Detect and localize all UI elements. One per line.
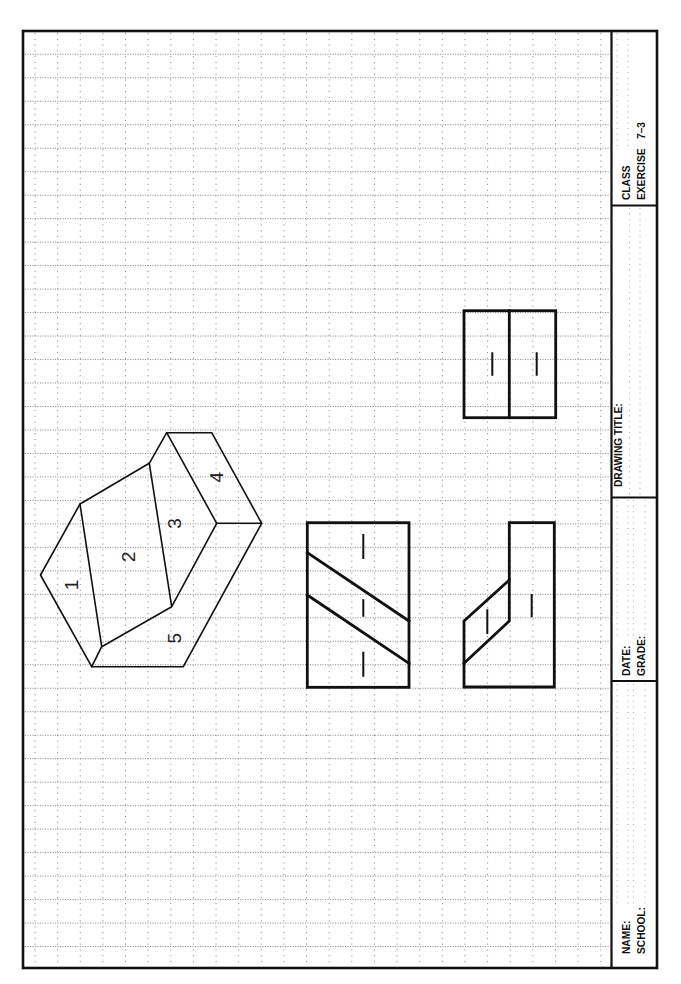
- drawing-sheet: CLASS EXERCISE 7–3 DRAWING TITLE: DATE: …: [0, 0, 681, 984]
- face-label-5: 5: [164, 633, 185, 644]
- exercise-label: EXERCISE: [636, 148, 647, 200]
- exercise-number: 7–3: [636, 122, 647, 139]
- date-label: DATE:: [621, 646, 632, 676]
- drawing-title-label: DRAWING TITLE:: [613, 403, 624, 487]
- paper-background: [0, 0, 681, 984]
- class-label: CLASS: [621, 165, 632, 200]
- face-label-4: 4: [206, 472, 227, 483]
- face-label-1: 1: [61, 580, 82, 591]
- face-label-3: 3: [164, 518, 185, 529]
- name-label: NAME:: [621, 921, 632, 954]
- drawing-title-cell: DRAWING TITLE:: [613, 403, 624, 487]
- school-label: SCHOOL:: [636, 907, 647, 954]
- grade-label: GRADE:: [636, 636, 647, 676]
- face-label-2: 2: [118, 551, 139, 562]
